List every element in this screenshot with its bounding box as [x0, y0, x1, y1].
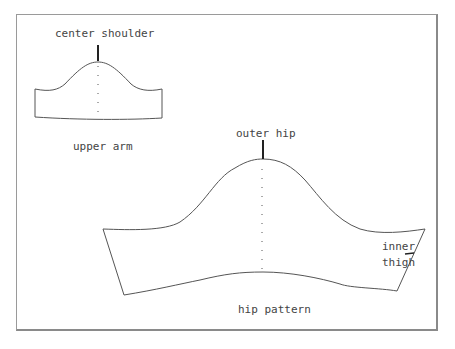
- hip-piece: [103, 140, 425, 295]
- outer-hip-label: outer hip: [236, 128, 296, 140]
- upper-arm-caption: upper arm: [73, 141, 133, 153]
- inner-thigh-marker: [405, 253, 414, 254]
- inner-label: inner: [382, 241, 415, 253]
- thigh-label: thigh: [382, 257, 415, 269]
- pattern-diagram: [0, 0, 455, 349]
- center-shoulder-label: center shoulder: [55, 28, 154, 40]
- hip-pattern-caption: hip pattern: [238, 304, 311, 316]
- upper-arm-piece: [35, 45, 162, 119]
